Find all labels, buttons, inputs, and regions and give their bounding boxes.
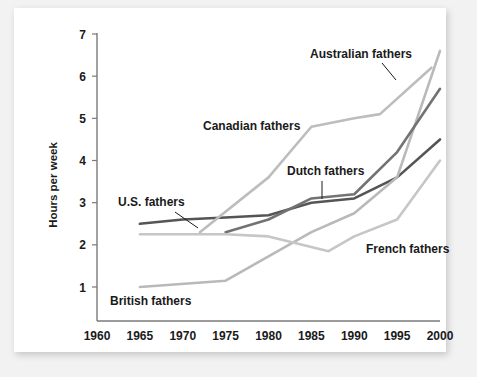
line-chart: 1234567 19601965197019751980198519901995… bbox=[0, 0, 477, 377]
y-tick-label: 7 bbox=[79, 28, 86, 42]
x-tick-label: 1960 bbox=[84, 329, 111, 343]
x-tick-label: 1975 bbox=[212, 329, 239, 343]
x-tick-label: 1990 bbox=[341, 329, 368, 343]
x-tick-label: 1980 bbox=[255, 329, 282, 343]
series-label-canadian-fathers: Canadian fathers bbox=[203, 119, 301, 133]
y-tick-label: 3 bbox=[79, 196, 86, 210]
series-label-australian-fathers: Australian fathers bbox=[310, 47, 412, 61]
x-tick-label: 1985 bbox=[298, 329, 325, 343]
series-line-dutch-fathers bbox=[226, 89, 440, 232]
series-label-dutch-fathers: Dutch fathers bbox=[287, 164, 365, 178]
y-tick-label: 6 bbox=[79, 70, 86, 84]
series-label-british-fathers: British fathers bbox=[110, 294, 192, 308]
y-tick-label: 2 bbox=[79, 238, 86, 252]
y-tick-label: 1 bbox=[79, 281, 86, 295]
series-line-canadian-fathers bbox=[200, 68, 432, 232]
x-tick-label: 1970 bbox=[169, 329, 196, 343]
leader-line bbox=[382, 63, 396, 80]
x-tick-label: 2000 bbox=[427, 329, 454, 343]
y-axis-title: Hours per week bbox=[47, 142, 59, 228]
y-tick-label: 5 bbox=[79, 112, 86, 126]
y-tick-labels: 1234567 bbox=[79, 28, 97, 295]
y-tick-label: 4 bbox=[79, 154, 86, 168]
series-label-u-s-fathers: U.S. fathers bbox=[118, 195, 185, 209]
x-tick-label: 1995 bbox=[384, 329, 411, 343]
series-label-french-fathers: French fathers bbox=[366, 242, 450, 256]
x-tick-labels: 196019651970197519801985199019952000 bbox=[84, 329, 454, 343]
x-tick-label: 1965 bbox=[127, 329, 154, 343]
